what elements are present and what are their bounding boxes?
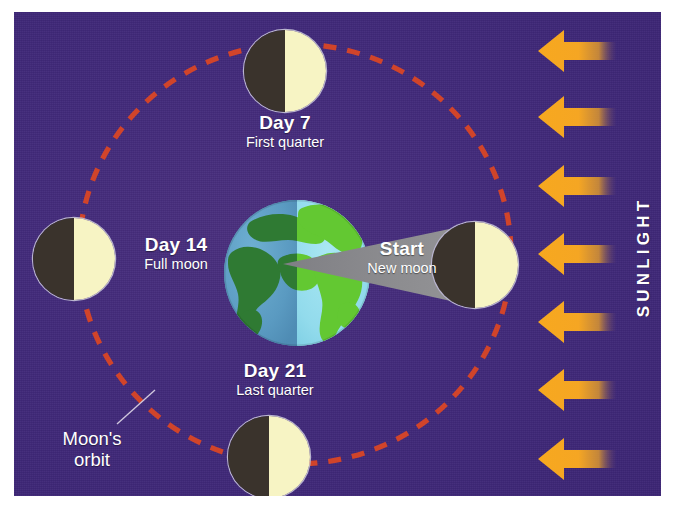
- moon-phases-diagram: Day 7 First quarter Day 14 Full moon Day…: [0, 0, 675, 510]
- sunlight-arrow: [538, 165, 616, 207]
- sunlight-arrow: [538, 233, 616, 275]
- sunlight-arrow: [538, 369, 616, 411]
- sunlight-arrow: [538, 438, 616, 480]
- sunlight-arrow: [538, 301, 616, 343]
- sky-panel: Day 7 First quarter Day 14 Full moon Day…: [14, 12, 661, 496]
- sunlight-arrow: [538, 30, 616, 72]
- sunlight-arrow-layer: [14, 12, 661, 496]
- sunlight-caption: SUNLIGHT: [629, 152, 659, 362]
- sunlight-arrow: [538, 96, 616, 138]
- sunlight-caption-text: SUNLIGHT: [634, 197, 654, 317]
